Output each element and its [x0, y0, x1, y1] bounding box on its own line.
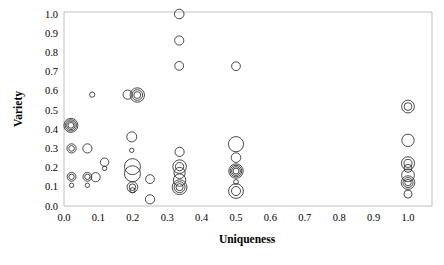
y-tick-label: 0.2: [45, 162, 58, 173]
y-tick-label: 0.9: [45, 28, 58, 39]
data-point-bubble: [90, 92, 95, 97]
x-tick-label: 0.8: [333, 212, 346, 223]
data-point-bubble: [401, 176, 415, 190]
x-tick-labels: 0.00.10.20.30.40.50.60.70.80.91.0: [57, 212, 414, 223]
y-tick-label: 0.7: [45, 66, 58, 77]
data-point-bubble: [127, 182, 138, 193]
y-tick-label: 0.0: [45, 201, 58, 212]
data-points: [64, 9, 415, 204]
data-point-bubble: [402, 100, 415, 113]
plot-canvas: 0.00.10.20.30.40.50.60.70.80.91.0 0.00.1…: [0, 0, 444, 265]
data-point-bubble: [231, 153, 241, 163]
data-point-bubble: [404, 190, 412, 198]
data-point-bubble: [145, 195, 154, 204]
data-point-bubble: [174, 9, 184, 19]
data-point-bubble: [175, 147, 184, 156]
data-point-bubble: [174, 167, 185, 178]
data-point-bubble: [124, 166, 140, 182]
x-tick-label: 0.4: [195, 212, 209, 223]
y-tick-label: 0.3: [45, 143, 58, 154]
data-point-bubble: [404, 164, 412, 172]
data-point-bubble: [229, 184, 244, 199]
data-point-bubble: [175, 61, 184, 70]
data-point-bubble: [69, 183, 73, 187]
y-tick-label: 0.5: [45, 105, 58, 116]
data-point-bubble: [127, 132, 137, 142]
x-tick-label: 1.0: [401, 212, 414, 223]
y-tick-label: 0.4: [45, 124, 59, 135]
x-tick-label: 0.5: [229, 212, 242, 223]
data-point-bubble: [64, 118, 78, 132]
data-point-bubble: [67, 172, 76, 181]
y-tick-labels: 0.00.10.20.30.40.50.60.70.80.91.0: [45, 9, 59, 212]
x-tick-label: 0.7: [298, 212, 311, 223]
y-tick-label: 1.0: [45, 9, 58, 20]
data-point-bubble: [175, 36, 184, 45]
y-tick-label: 0.8: [45, 47, 58, 58]
data-point-bubble: [124, 159, 140, 175]
data-point-bubble: [83, 172, 92, 181]
data-point-bubble: [402, 134, 414, 146]
scatter-chart-figure: 0.00.10.20.30.40.50.60.70.80.91.0 0.00.1…: [0, 0, 444, 265]
plot-area-frame: [64, 12, 432, 206]
y-tick-label: 0.1: [45, 181, 58, 192]
y-tick-label: 0.6: [45, 85, 58, 96]
data-point-bubble: [85, 183, 89, 187]
data-point-bubble: [91, 173, 100, 182]
data-point-bubble: [172, 180, 187, 195]
x-tick-label: 0.9: [367, 212, 380, 223]
x-tick-label: 0.0: [57, 212, 70, 223]
data-point-bubble: [173, 160, 187, 174]
y-axis-title: Variety: [12, 91, 25, 127]
data-point-bubble: [130, 148, 134, 152]
x-tick-label: 0.1: [92, 212, 105, 223]
x-tick-label: 0.2: [126, 212, 139, 223]
data-point-bubble: [228, 137, 243, 152]
data-point-bubble: [130, 88, 144, 102]
x-tick-label: 0.6: [264, 212, 277, 223]
data-point-bubble: [100, 158, 108, 166]
data-point-bubble: [232, 62, 241, 71]
data-point-bubble: [83, 144, 92, 153]
x-axis-title: Uniqueness: [219, 233, 276, 246]
data-point-bubble: [67, 144, 76, 153]
data-point-bubble: [229, 164, 243, 178]
x-tick-label: 0.3: [161, 212, 174, 223]
data-point-bubble: [401, 157, 414, 170]
data-point-bubble: [146, 175, 155, 184]
